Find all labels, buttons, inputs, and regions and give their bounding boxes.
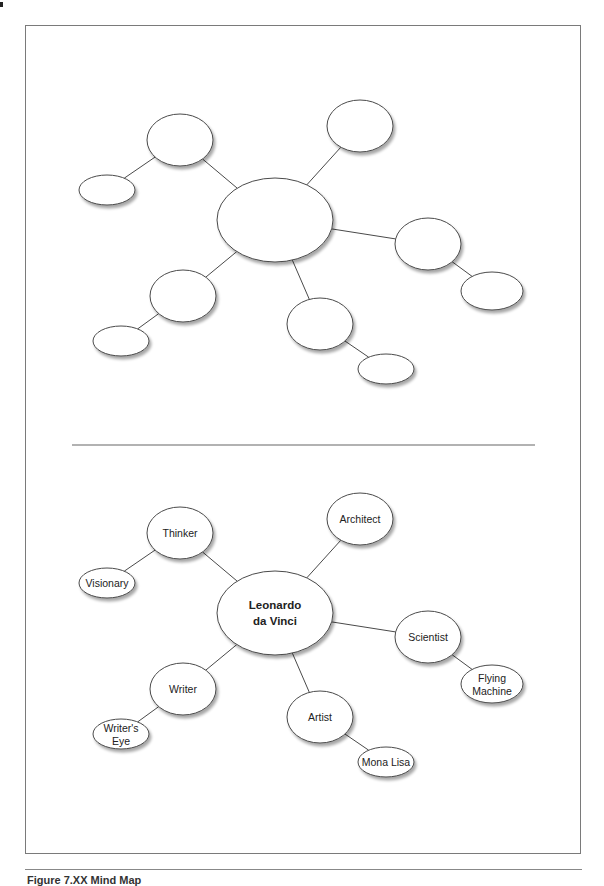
connector-scientist-flying-machine — [452, 655, 472, 670]
node-ellipse — [358, 354, 414, 384]
node-ellipse — [395, 218, 461, 270]
node-ellipse — [93, 326, 149, 356]
connector-center-thinker — [203, 159, 238, 188]
node-label: Artist — [308, 711, 332, 723]
node-label: Visionary — [86, 577, 130, 589]
node-ellipse — [327, 100, 393, 152]
connector-writer-writers-eye — [138, 707, 159, 722]
node-mona-lisa: Mona Lisa — [358, 747, 414, 777]
connector-center-scientist — [332, 229, 396, 239]
node-label: Thinker — [162, 527, 198, 539]
node-label: Mona Lisa — [362, 756, 411, 768]
node-artist: Artist — [287, 691, 353, 743]
node-architect — [327, 100, 393, 152]
node-writers-eye: Writer'sEye — [93, 719, 149, 749]
connector-writer-writers-eye — [138, 314, 159, 329]
node-mona-lisa — [358, 354, 414, 384]
connector-center-artist — [292, 260, 309, 299]
node-label: Writer's — [103, 722, 138, 734]
node-scientist — [395, 218, 461, 270]
leonardo-mind-map: Leonardoda VinciThinkerVisionaryArchitec… — [79, 493, 523, 777]
connector-center-writer — [206, 645, 237, 671]
node-ellipse — [217, 571, 333, 655]
node-ellipse — [147, 114, 213, 166]
connector-center-architect — [307, 540, 341, 578]
connector-artist-mona-lisa — [345, 341, 369, 357]
node-label: Writer — [169, 683, 197, 695]
node-ellipse — [217, 178, 333, 262]
node-center: Leonardoda Vinci — [217, 571, 333, 655]
node-ellipse — [287, 298, 353, 350]
connector-center-architect — [307, 147, 341, 185]
connector-center-artist — [292, 653, 309, 692]
node-label: Architect — [340, 513, 381, 525]
node-writers-eye — [93, 326, 149, 356]
connector-center-writer — [206, 252, 237, 278]
node-visionary: Visionary — [79, 568, 135, 598]
node-label: Eye — [112, 735, 130, 747]
connector-center-thinker — [203, 552, 238, 581]
node-label: da Vinci — [253, 615, 297, 627]
node-scientist: Scientist — [395, 611, 461, 663]
figure-caption: Figure 7.XX Mind Map — [27, 874, 141, 886]
connector-thinker-visionary — [124, 550, 155, 571]
connector-artist-mona-lisa — [345, 734, 369, 750]
connector-center-scientist — [332, 622, 396, 632]
connector-thinker-visionary — [124, 157, 155, 178]
caption-rule — [25, 869, 582, 870]
node-flying-machine: FlyingMachine — [461, 665, 523, 703]
node-ellipse — [150, 270, 216, 322]
node-artist — [287, 298, 353, 350]
node-thinker: Thinker — [147, 507, 213, 559]
node-label: Scientist — [408, 631, 448, 643]
node-writer — [150, 270, 216, 322]
node-label: Machine — [472, 685, 512, 697]
node-writer: Writer — [150, 663, 216, 715]
node-ellipse — [79, 175, 135, 205]
node-visionary — [79, 175, 135, 205]
node-label: Flying — [478, 672, 506, 684]
node-thinker — [147, 114, 213, 166]
blank-mind-map — [79, 100, 523, 384]
node-center — [217, 178, 333, 262]
node-flying-machine — [461, 272, 523, 310]
node-ellipse — [461, 272, 523, 310]
node-label: Leonardo — [249, 599, 301, 611]
node-architect: Architect — [327, 493, 393, 545]
connector-scientist-flying-machine — [452, 262, 472, 277]
